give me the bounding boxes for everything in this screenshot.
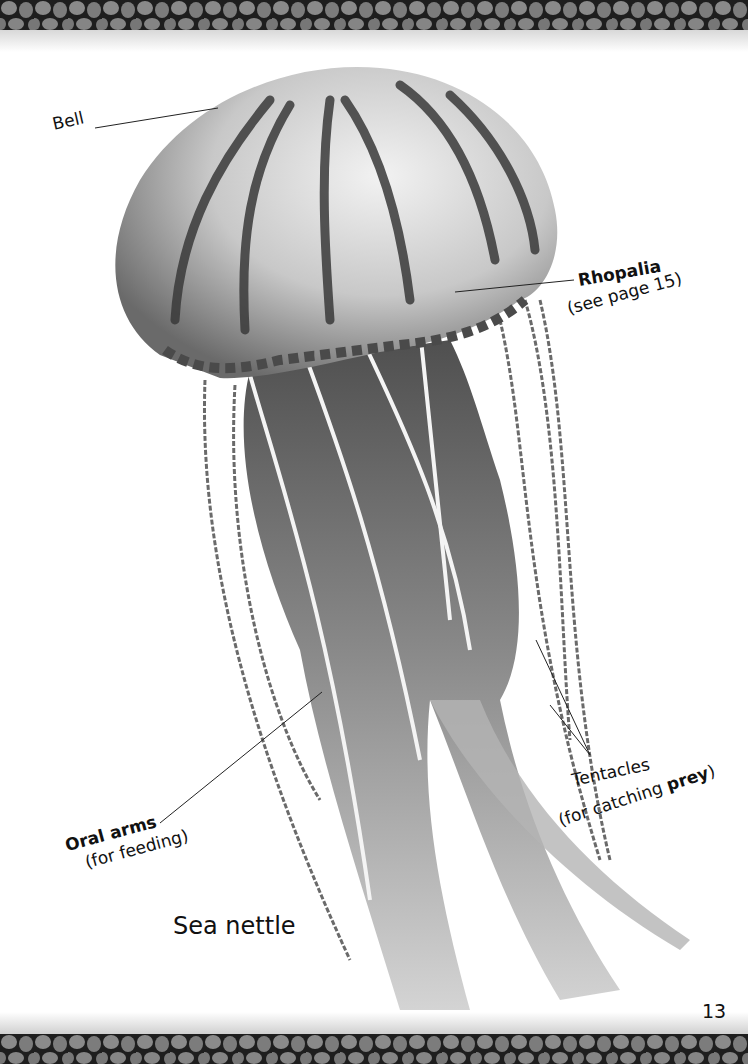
- jellyfish-illustration: [0, 0, 748, 1064]
- illustration-caption: Sea nettle: [173, 912, 296, 940]
- pebble-pattern-icon: [0, 1034, 748, 1064]
- page-number: 13: [702, 1000, 726, 1022]
- decorative-border-bottom: [0, 1034, 748, 1064]
- oral-arms: [244, 340, 690, 1010]
